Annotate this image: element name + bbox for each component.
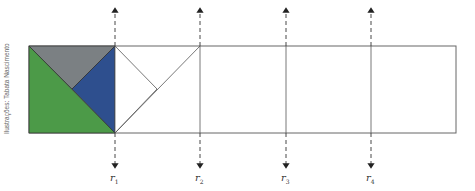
label-r3-sub: 3 xyxy=(286,178,290,185)
label-r3: r3 xyxy=(281,172,290,185)
illustration-credit: Ilustrações: Tabata Nascimento xyxy=(3,44,10,134)
white-reflected-triangle xyxy=(115,46,157,133)
label-r2: r2 xyxy=(195,172,204,185)
label-r1: r1 xyxy=(110,172,119,185)
label-r1-sub: 1 xyxy=(115,178,119,185)
label-r2-sub: 2 xyxy=(200,178,204,185)
reflection-diagram xyxy=(0,0,475,191)
label-r4: r4 xyxy=(366,172,375,185)
label-r4-sub: 4 xyxy=(371,178,375,185)
